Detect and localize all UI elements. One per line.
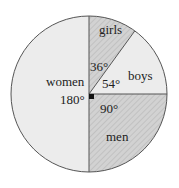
label-men: men	[106, 129, 129, 144]
label-girls: girls	[99, 22, 122, 37]
label-women-angle: 180°	[60, 92, 85, 107]
label-boys-angle: 54°	[102, 76, 120, 91]
label-women: women	[46, 74, 85, 89]
label-boys: boys	[128, 68, 153, 83]
label-men-angle: 90°	[100, 101, 118, 116]
right-angle-marker	[89, 94, 94, 99]
pie-chart: girls 36° boys 54° 90° men women 180°	[0, 0, 179, 188]
label-girls-angle: 36°	[90, 59, 108, 74]
